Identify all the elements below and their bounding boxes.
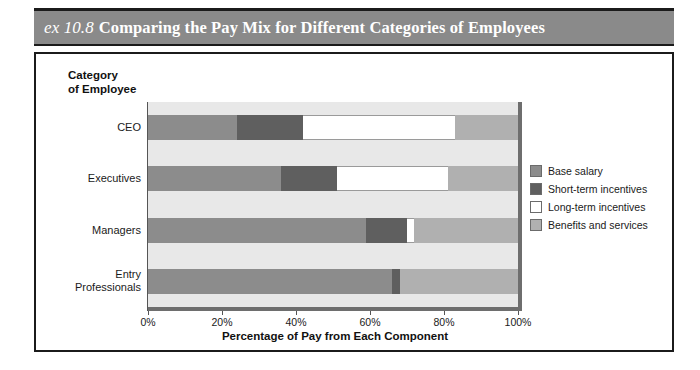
chart-panel: Category of Employee CEOExecutivesManage… bbox=[34, 52, 674, 352]
category-tick-label: Entry Professionals bbox=[41, 268, 141, 294]
legend-label: Long-term incentives bbox=[548, 201, 645, 213]
x-axis-ticks: 0%20%40%60%80%100% bbox=[148, 311, 522, 329]
x-tick-mark bbox=[222, 311, 223, 315]
y-axis-title: Category of Employee bbox=[68, 68, 136, 96]
plot-area bbox=[148, 102, 522, 311]
bar-segment bbox=[148, 218, 366, 243]
exhibit-number: ex 10.8 bbox=[44, 18, 94, 37]
x-tick-mark bbox=[148, 311, 149, 315]
legend-item: Long-term incentives bbox=[530, 198, 670, 215]
category-tick-label: CEO bbox=[41, 121, 141, 134]
x-tick-mark bbox=[444, 311, 445, 315]
bar-row bbox=[148, 115, 518, 140]
bar-segment bbox=[366, 218, 407, 243]
legend-swatch-icon bbox=[530, 219, 542, 231]
category-tick-label: Executives bbox=[41, 172, 141, 185]
bar-segment bbox=[148, 269, 392, 294]
x-tick-label: 100% bbox=[505, 316, 532, 328]
bar-segment bbox=[337, 166, 448, 191]
x-tick-mark bbox=[518, 311, 519, 315]
legend-swatch-icon bbox=[530, 201, 542, 213]
x-tick-label: 20% bbox=[211, 316, 232, 328]
legend-item: Benefits and services bbox=[530, 216, 670, 233]
bar-row bbox=[148, 269, 518, 294]
bar-segment bbox=[448, 166, 518, 191]
bar-segment bbox=[237, 115, 304, 140]
x-tick-mark bbox=[370, 311, 371, 315]
figure-title-text: Comparing the Pay Mix for Different Cate… bbox=[99, 18, 545, 37]
legend-label: Base salary bbox=[548, 165, 603, 177]
x-tick-label: 80% bbox=[433, 316, 454, 328]
x-tick-label: 40% bbox=[285, 316, 306, 328]
bar-segment bbox=[414, 218, 518, 243]
legend-item: Base salary bbox=[530, 162, 670, 179]
bar-segment bbox=[407, 218, 414, 243]
x-axis-title: Percentage of Pay from Each Component bbox=[148, 330, 522, 342]
bar-segment bbox=[392, 269, 399, 294]
bar-segment bbox=[148, 115, 237, 140]
x-tick-label: 60% bbox=[359, 316, 380, 328]
bar-row bbox=[148, 218, 518, 243]
exhibit-figure: ex 10.8Comparing the Pay Mix for Differe… bbox=[34, 8, 674, 356]
bar-row bbox=[148, 166, 518, 191]
title-banner: ex 10.8Comparing the Pay Mix for Differe… bbox=[34, 8, 674, 46]
chart-legend: Base salaryShort-term incentivesLong-ter… bbox=[530, 162, 670, 234]
bar-segment bbox=[303, 115, 455, 140]
figure-title: ex 10.8Comparing the Pay Mix for Differe… bbox=[44, 18, 545, 38]
legend-item: Short-term incentives bbox=[530, 180, 670, 197]
category-axis-labels: CEOExecutivesManagersEntry Professionals bbox=[36, 102, 141, 307]
category-tick-label: Managers bbox=[41, 224, 141, 237]
bar-segment bbox=[455, 115, 518, 140]
legend-label: Benefits and services bbox=[548, 219, 648, 231]
legend-swatch-icon bbox=[530, 165, 542, 177]
bar-segment bbox=[400, 269, 518, 294]
x-tick-label: 0% bbox=[140, 316, 155, 328]
x-tick-mark bbox=[296, 311, 297, 315]
legend-label: Short-term incentives bbox=[548, 183, 647, 195]
bar-segment bbox=[148, 166, 281, 191]
bar-segment bbox=[281, 166, 337, 191]
legend-swatch-icon bbox=[530, 183, 542, 195]
